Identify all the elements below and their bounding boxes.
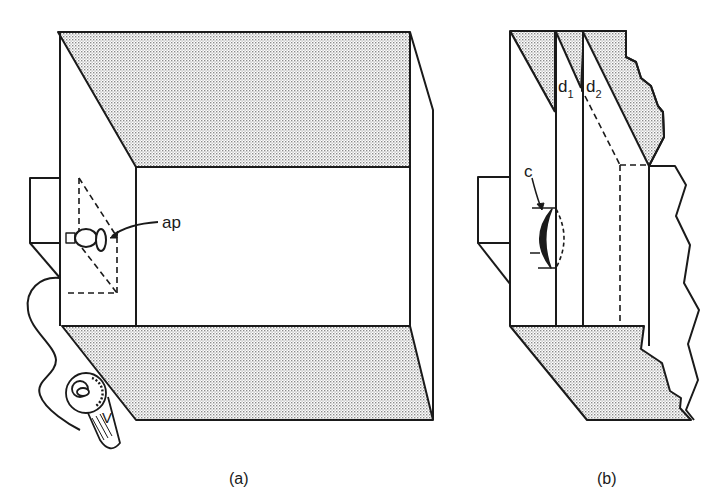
- box-floor: [62, 326, 433, 420]
- panel-a: [28, 32, 433, 448]
- lamp-housing: [30, 178, 60, 243]
- condenser-label: c: [524, 162, 533, 181]
- lamp-bulb-icon: [75, 229, 97, 247]
- torn-floor: [510, 326, 691, 420]
- voltage-label: V: [102, 409, 112, 426]
- lamp-housing-b: [478, 177, 510, 243]
- optical-box-diagram: ap V (a): [0, 0, 718, 502]
- box-top-wall: [58, 32, 410, 167]
- lamp-socket-icon: [66, 233, 75, 243]
- caption-b: (b): [597, 470, 617, 487]
- aperture-icon: [96, 229, 106, 251]
- caption-a: (a): [229, 470, 249, 487]
- box-back-wall: [136, 167, 410, 326]
- aperture-label: ap: [162, 213, 181, 232]
